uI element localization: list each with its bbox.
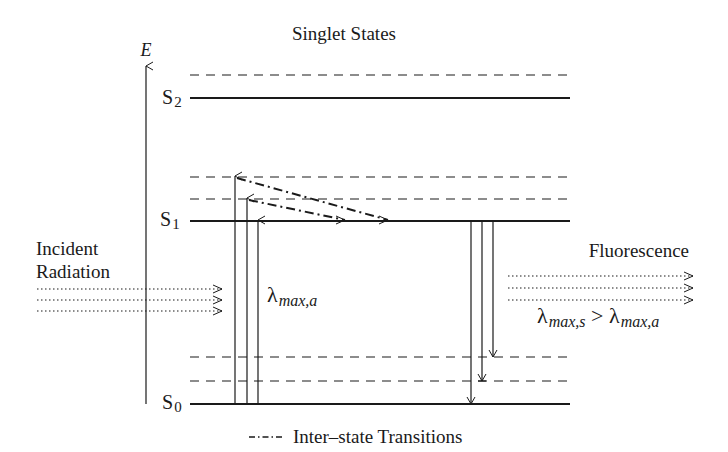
diagram-title: Singlet States <box>292 23 396 44</box>
legend-label: Inter–state Transitions <box>293 426 462 447</box>
incident-label-line2: Radiation <box>36 261 110 282</box>
absorption-arrows <box>235 176 258 404</box>
level-s0: S0 <box>162 357 570 415</box>
level-s1: S1 <box>160 177 570 232</box>
fluorescence-wavelength-relation: λmax,s > λmax,a <box>537 303 659 330</box>
fluorescence: Fluorescence λmax,s > λmax,a <box>508 240 693 330</box>
s2-label: S2 <box>162 86 182 110</box>
incident-radiation: Incident Radiation <box>36 238 222 311</box>
emission-arrows <box>471 221 493 404</box>
fluorescence-label: Fluorescence <box>589 240 689 261</box>
energy-axis-label: E <box>140 40 152 60</box>
incident-label-line1: Incident <box>36 238 99 259</box>
energy-axis: E <box>140 40 152 404</box>
s0-label: S0 <box>162 391 182 415</box>
absorption-wavelength-label: λmax,a <box>267 282 317 309</box>
level-s2: S2 <box>162 75 570 110</box>
jablonski-diagram: Singlet States E S2 S1 S0 <box>0 0 728 452</box>
legend: Inter–state Transitions <box>249 426 462 447</box>
s1-label: S1 <box>160 208 180 232</box>
